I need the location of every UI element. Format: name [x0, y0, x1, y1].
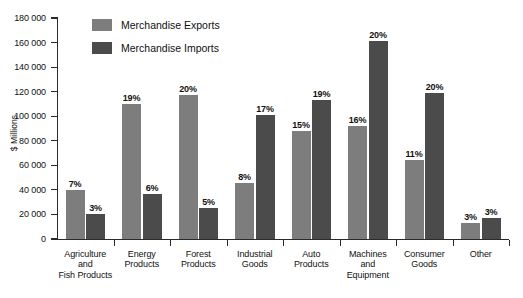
legend-item[interactable]: Merchandise Exports [92, 16, 220, 33]
bar-value-label: 8% [238, 172, 251, 182]
bar-group: 3%3% [453, 18, 510, 239]
bar-value-label: 19% [313, 89, 330, 99]
bar-value-label: 16% [349, 115, 366, 125]
y-axis-tick-label: 0 [0, 234, 46, 244]
bar-value-label: 5% [202, 197, 215, 207]
legend-swatch-imports [92, 42, 112, 54]
bar-value-label: 20% [426, 82, 443, 92]
x-axis-category-line: Fish Products [50, 270, 121, 280]
bar-group: 8%17% [227, 18, 284, 239]
bar-value-label: 15% [292, 120, 309, 130]
bar-imports[interactable]: 20% [425, 93, 444, 239]
bar-exports[interactable]: 15% [292, 131, 311, 239]
x-axis-category-line: Equipment [333, 270, 404, 280]
bar-value-label: 3% [464, 212, 477, 222]
bar-imports[interactable]: 19% [312, 100, 331, 239]
bar-exports[interactable]: 7% [66, 190, 85, 239]
x-axis-category-line: Goods [389, 259, 460, 269]
x-axis-category-label: Other [446, 249, 517, 259]
bar-value-label: 17% [256, 104, 273, 114]
x-axis-tick [170, 240, 171, 246]
y-axis-tick-label: 100 000 [0, 111, 46, 121]
bar-imports[interactable]: 20% [369, 41, 388, 239]
y-axis-tick-label: 60 000 [0, 160, 46, 170]
bar-value-label: 19% [123, 93, 140, 103]
x-axis-tick [283, 240, 284, 246]
bar-exports[interactable]: 8% [235, 183, 254, 239]
y-axis-tick-label: 40 000 [0, 185, 46, 195]
x-axis-tick [340, 240, 341, 246]
x-axis-tick [453, 240, 454, 246]
x-axis-tick [227, 240, 228, 246]
legend-item[interactable]: Merchandise Imports [92, 39, 220, 56]
bar-group: 15%19% [283, 18, 340, 239]
bar-group: 11%20% [396, 18, 453, 239]
x-axis-category-line: Other [446, 249, 517, 259]
y-axis-tick-label: 120 000 [0, 87, 46, 97]
x-axis-tick [396, 240, 397, 246]
legend-label: Merchandise Exports [121, 19, 220, 31]
bar-value-label: 11% [406, 149, 423, 159]
bar-exports[interactable]: 11% [405, 160, 424, 239]
legend-label: Merchandise Imports [121, 42, 219, 54]
bar-imports[interactable]: 5% [199, 208, 218, 239]
bar-group: 16%20% [340, 18, 397, 239]
bar-imports[interactable]: 6% [143, 194, 162, 239]
y-axis-tick-label: 140 000 [0, 62, 46, 72]
bar-value-label: 20% [179, 84, 196, 94]
y-axis-tick-label: 160 000 [0, 38, 46, 48]
bar-imports[interactable]: 3% [482, 218, 501, 239]
x-axis-tick [509, 240, 510, 246]
bar-exports[interactable]: 20% [179, 95, 198, 239]
y-axis-tick-label: 80 000 [0, 136, 46, 146]
bar-value-label: 6% [146, 183, 159, 193]
y-axis-tick-label: 20 000 [0, 209, 46, 219]
bar-exports[interactable]: 3% [461, 223, 480, 239]
bar-exports[interactable]: 16% [348, 126, 367, 239]
legend-swatch-exports [92, 19, 112, 31]
bar-chart: $ Millions 020 00040 00060 00080 000100 … [0, 0, 523, 298]
bar-value-label: 3% [485, 207, 498, 217]
bar-exports[interactable]: 19% [122, 104, 141, 239]
x-axis-tick [114, 240, 115, 246]
bar-value-label: 7% [69, 179, 82, 189]
bar-value-label: 3% [89, 203, 102, 213]
bar-imports[interactable]: 17% [256, 115, 275, 239]
bar-imports[interactable]: 3% [86, 214, 105, 239]
chart-legend: Merchandise ExportsMerchandise Imports [92, 16, 220, 62]
y-axis-tick-label: 180 000 [0, 13, 46, 23]
bar-value-label: 20% [369, 30, 386, 40]
